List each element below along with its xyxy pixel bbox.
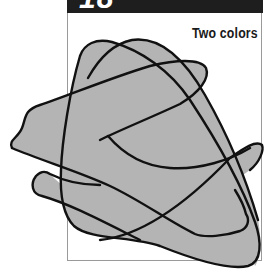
figure-caption: Two colors <box>192 25 258 41</box>
overlapping-shapes-illustration <box>0 0 270 274</box>
shape-fills <box>11 39 262 267</box>
